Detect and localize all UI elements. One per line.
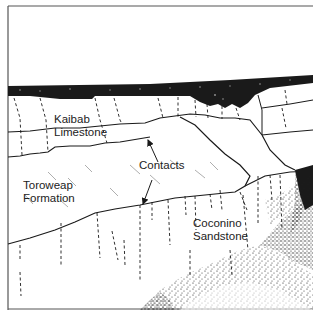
kaibab-label-line2: Limestone — [54, 126, 107, 139]
rim-cap — [8, 75, 313, 108]
coconino-sandstone-label: Coconino Sandstone — [193, 217, 248, 243]
toroweap-label-line2: Formation — [23, 192, 75, 205]
contact-arrows — [143, 140, 158, 204]
kaibab-limestone-label: Kaibab Limestone — [54, 113, 107, 139]
contacts-label-text: Contacts — [139, 159, 184, 171]
right-bench — [258, 95, 313, 135]
contacts-label: Contacts — [139, 159, 184, 172]
coconino-label-line2: Sandstone — [193, 230, 248, 243]
geology-diagram — [0, 0, 313, 310]
coconino-label-line1: Coconino — [193, 217, 248, 230]
kaibab-label-line1: Kaibab — [54, 113, 107, 126]
toroweap-label-line1: Toroweap — [23, 179, 75, 192]
toroweap-formation-label: Toroweap Formation — [23, 179, 75, 205]
